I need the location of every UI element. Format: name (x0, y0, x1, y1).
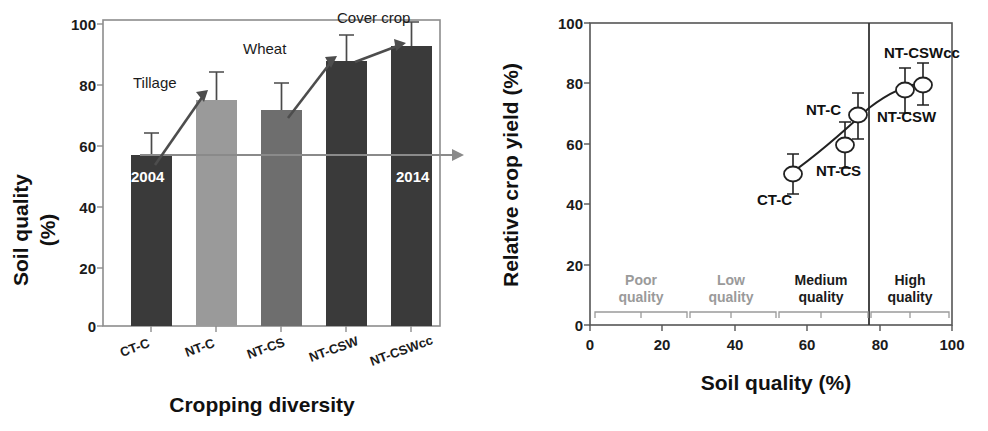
scatter-y-ticks: 100 80 60 40 20 0 (558, 15, 590, 334)
scatter-x-ticks: 0 20 40 60 80 100 (586, 325, 965, 353)
scatter-x-axis-title: Soil quality (%) (701, 371, 852, 394)
scatter-x-tick-0: 0 (586, 336, 594, 353)
scatter-x-tick-80: 80 (872, 336, 889, 353)
bar-NT-CS (261, 110, 302, 326)
zone-label-low-line1: Low (717, 272, 745, 288)
y-axis-title-line1: Soil quality (9, 174, 32, 286)
category-label-nt-cs: NT-CS (245, 334, 287, 362)
scatter-y-tick-100: 100 (558, 15, 583, 32)
scatter-y-tick-0: 0 (575, 317, 583, 334)
panel-scatter-chart: Relative crop yield (%) 100 80 60 40 20 … (494, 0, 988, 431)
zone-label-low-line2: quality (708, 289, 753, 305)
y-tick-label-0: 0 (88, 318, 96, 335)
bar-chart-y-axis-title: Soil quality (%) (9, 174, 59, 286)
category-label-nt-c: NT-C (183, 335, 217, 360)
scatter-x-tick-60: 60 (799, 336, 816, 353)
zone-label-poor-line2: quality (618, 289, 663, 305)
zone-label-poor-line1: Poor (625, 272, 657, 288)
scatter-x-tick-100: 100 (939, 336, 964, 353)
point-label-nt-cs: NT-CS (816, 162, 861, 179)
scatter-x-tick-20: 20 (654, 336, 671, 353)
marker-ct-c (784, 167, 802, 182)
zone-label-medium-line1: Medium (795, 272, 848, 288)
point-label-nt-csw: NT-CSW (877, 108, 937, 125)
panel-bar-chart: Soil quality (%) 100 80 60 40 20 0 (0, 0, 494, 431)
scatter-y-tick-60: 60 (566, 136, 583, 153)
bar-chart-x-ticks (151, 326, 411, 332)
scatter-y-tick-40: 40 (566, 196, 583, 213)
y-tick-label-80: 80 (79, 77, 96, 94)
y-tick-label-40: 40 (79, 199, 96, 216)
category-label-nt-cswcc: NT-CSWcc (368, 332, 435, 369)
point-label-nt-c: NT-C (806, 101, 841, 118)
marker-nt-cswcc (914, 78, 932, 93)
bar-chart-svg: Soil quality (%) 100 80 60 40 20 0 (0, 0, 494, 431)
point-label-ct-c: CT-C (757, 191, 792, 208)
y-axis-title-line2: (%) (36, 214, 59, 247)
scatter-y-tick-20: 20 (566, 257, 583, 274)
marker-nt-c (849, 108, 867, 123)
quality-zone-labels: Poor quality Low quality Medium quality … (618, 272, 932, 305)
bar-label-2004: 2004 (131, 168, 165, 185)
annotation-label-wheat: Wheat (243, 40, 287, 57)
annotation-label-tillage: Tillage (133, 74, 177, 91)
bar-chart-category-labels: CT-C NT-C NT-CS NT-CSW NT-CSWcc (118, 332, 435, 369)
bar-chart-y-ticks: 100 80 60 40 20 0 (71, 16, 103, 335)
annotation-label-cover-crop: Cover crop (337, 9, 410, 26)
zone-label-medium-line2: quality (798, 289, 843, 305)
quality-zone-braces (595, 312, 949, 318)
y-tick-label-100: 100 (71, 16, 96, 33)
scatter-x-tick-40: 40 (727, 336, 744, 353)
bar-NT-CSWcc (391, 46, 432, 326)
scatter-y-axis-title: Relative crop yield (%) (499, 63, 522, 287)
bar-chart-x-axis-title: Cropping diversity (169, 393, 355, 416)
y-tick-label-60: 60 (79, 138, 96, 155)
figure-container: Soil quality (%) 100 80 60 40 20 0 (0, 0, 988, 431)
zone-label-high-line2: quality (887, 289, 932, 305)
marker-nt-cs (836, 138, 854, 153)
zone-label-high-line1: High (894, 272, 925, 288)
bar-label-2014: 2014 (396, 168, 430, 185)
category-label-ct-c: CT-C (118, 335, 152, 360)
y-tick-label-20: 20 (79, 260, 96, 277)
bar-NT-C (196, 100, 237, 326)
bar-NT-CSW (326, 61, 367, 326)
scatter-chart-svg: Relative crop yield (%) 100 80 60 40 20 … (494, 0, 988, 431)
point-label-nt-cswcc: NT-CSWcc (884, 44, 960, 61)
category-label-nt-csw: NT-CSW (307, 333, 361, 365)
marker-nt-csw (896, 83, 914, 98)
scatter-y-tick-80: 80 (566, 75, 583, 92)
